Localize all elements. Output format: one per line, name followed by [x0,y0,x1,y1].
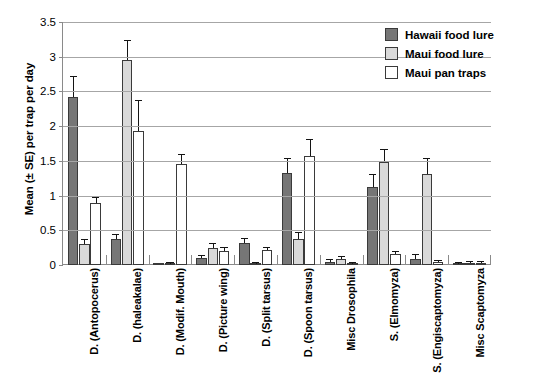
error-bar-cap [252,262,259,263]
legend-item: Maui food lure [385,44,535,63]
bar [464,263,475,265]
error-bar [181,155,182,165]
x-axis-tick-label: D. (Modif. Mouth) [174,268,186,355]
bar-group [149,22,192,265]
bar [476,263,487,265]
error-bar-cap [434,260,441,261]
x-axis-tick-label: Misc Drosophila [345,268,357,351]
y-axis-tick-label: 0.5 [40,224,56,236]
error-bar-cap [70,76,77,77]
error-bar-cap [295,232,302,233]
x-axis-tick [106,255,107,265]
y-axis-tick-label: 3.5 [40,16,56,28]
gridline [63,196,491,197]
error-bar [438,261,439,262]
bar [176,164,187,265]
y-axis-tick-label: 1 [50,190,56,202]
error-bar [213,244,214,247]
error-bar-cap [338,256,345,257]
x-axis-labels: D. (Antopocerus)D. (haleakalae)D. (Modif… [62,268,490,388]
bar [196,258,207,265]
bar-group [320,22,363,265]
bar [153,263,164,265]
x-axis-tick [490,255,491,265]
bar [379,162,390,265]
y-axis-tick [59,161,63,162]
error-bar [298,233,299,239]
bar-group [234,22,277,265]
bar [433,262,444,265]
gridline [63,230,491,231]
error-bar [224,248,225,251]
error-bar [73,77,74,97]
bar [304,156,315,265]
error-bar-cap [209,243,216,244]
bar [282,173,293,265]
bar [79,244,90,265]
y-axis-tick [59,126,63,127]
error-bar-cap [423,158,430,159]
x-axis-tick [277,255,278,265]
error-bar-cap [166,262,173,263]
legend-label: Maui food lure [405,48,484,60]
legend-item: Hawaii food lure [385,25,535,44]
bar [293,239,304,265]
bar [336,259,347,265]
legend-item: Maui pan traps [385,63,535,82]
x-axis-tick-label: D. (haleakalae) [131,268,143,343]
error-bar-cap [306,139,313,140]
x-axis-tick [363,255,364,265]
error-bar [256,263,257,264]
x-axis-tick-label: D. (Picture wing) [217,268,229,352]
y-axis-title: Mean (± SE) per trap per day [23,34,35,244]
bar-group [191,22,234,265]
error-bar [201,256,202,258]
bar [90,203,101,265]
error-bar [352,263,353,264]
bar-group [63,22,106,265]
y-axis-tick-label: 2 [50,120,56,132]
bar [239,243,250,265]
bar [390,254,401,265]
legend-swatch [385,47,398,60]
error-bar [244,239,245,242]
x-axis-tick-label: S. (Elmomyza) [388,268,400,341]
legend-label: Maui pan traps [405,67,486,79]
gridline [63,161,491,162]
bar [262,250,273,265]
gridline [63,126,491,127]
x-axis-tick-label: D. (Split tarsus) [260,268,272,347]
error-bar-cap [263,247,270,248]
error-bar [267,248,268,251]
gridline [63,22,491,23]
x-axis-tick-label: D. (Spoon tarsus) [302,268,314,357]
x-axis-tick [448,255,449,265]
error-bar [415,255,416,258]
error-bar-cap [81,239,88,240]
bar-chart: Mean (± SE) per trap per day 00.511.522.… [0,0,544,389]
error-bar [310,140,311,156]
error-bar-cap [112,234,119,235]
legend-swatch [385,28,398,41]
error-bar [96,198,97,202]
error-bar-cap [241,238,248,239]
error-bar-cap [124,40,131,41]
error-bar [458,263,459,264]
y-axis-tick [59,22,63,23]
error-bar [84,240,85,244]
gridline [63,91,491,92]
x-axis-tick [405,255,406,265]
x-axis-tick [191,255,192,265]
error-bar [395,252,396,254]
error-bar-cap [412,254,419,255]
error-bar-cap [178,154,185,155]
chart-legend: Hawaii food lureMaui food lureMaui pan t… [385,25,535,82]
x-axis-tick [320,255,321,265]
x-axis-tick [234,255,235,265]
error-bar-cap [392,251,399,252]
error-bar-cap [380,149,387,150]
y-axis-tick-label: 1.5 [40,155,56,167]
bar [219,251,230,265]
y-axis-tick [59,196,63,197]
bar [410,259,421,265]
